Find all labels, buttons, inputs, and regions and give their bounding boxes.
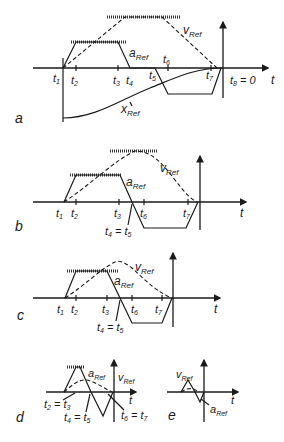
svg-text:t3: t3 xyxy=(114,207,121,220)
panel-label-e: e xyxy=(168,407,176,423)
svg-text:t7: t7 xyxy=(183,207,191,220)
svg-text:t3: t3 xyxy=(102,303,109,316)
svg-text:vRef: vRef xyxy=(118,371,135,385)
svg-text:t3: t3 xyxy=(113,74,120,87)
xref-label: xRef xyxy=(120,102,140,118)
svg-text:t6: t6 xyxy=(163,53,170,66)
svg-text:t2: t2 xyxy=(71,207,78,220)
acceleration-curve xyxy=(181,380,204,402)
t-axis-label: t xyxy=(271,73,275,87)
panel-b: vRef aRef t1 t2 t3 t6 t7 t4 = t5 t b xyxy=(15,151,246,238)
svg-text:t7: t7 xyxy=(155,303,163,316)
panel-label-a: a xyxy=(15,110,23,126)
svg-text:t4 = t5: t4 = t5 xyxy=(64,411,91,424)
svg-text:t1: t1 xyxy=(53,72,60,85)
svg-text:t8 = 0: t8 = 0 xyxy=(230,74,257,87)
panel-d: aRef vRef t t2 = t3 t4 = t5 t6 = t7 d xyxy=(16,360,149,425)
aref-label: aRef xyxy=(129,46,149,62)
position-curve xyxy=(63,68,222,118)
svg-text:t1: t1 xyxy=(56,207,63,220)
svg-text:aRef: aRef xyxy=(114,274,134,290)
svg-text:t2 = t3: t2 = t3 xyxy=(44,398,71,411)
svg-text:aRef: aRef xyxy=(210,403,228,417)
svg-text:t: t xyxy=(214,302,218,316)
svg-text:t4 = t5: t4 = t5 xyxy=(97,321,124,334)
svg-text:t5: t5 xyxy=(149,69,156,82)
svg-text:t6: t6 xyxy=(140,207,147,220)
svg-text:t7: t7 xyxy=(206,69,214,82)
svg-text:vRef: vRef xyxy=(176,368,193,382)
svg-text:t: t xyxy=(231,394,235,406)
svg-text:t6 = t7: t6 = t7 xyxy=(121,409,149,422)
svg-text:t2: t2 xyxy=(71,74,78,87)
panel-c: vRef aRef t1 t2 t3 t6 t7 t4 = t5 t c xyxy=(17,253,220,334)
panel-e: vRef aRef t e xyxy=(167,360,238,423)
panel-label-d: d xyxy=(16,409,25,425)
panel-label-c: c xyxy=(17,307,24,323)
svg-text:vRef: vRef xyxy=(160,161,179,177)
svg-text:t6: t6 xyxy=(131,303,138,316)
svg-text:vRef: vRef xyxy=(135,260,154,276)
svg-text:aRef: aRef xyxy=(88,367,106,381)
svg-text:t4: t4 xyxy=(126,74,133,87)
svg-text:aRef: aRef xyxy=(126,175,146,191)
svg-text:t1: t1 xyxy=(57,303,64,316)
svg-text:t: t xyxy=(240,206,244,220)
trajectory-figure: vRef aRef xRef t1 t2 t3 t4 t5 t6 t7 t8 =… xyxy=(0,0,284,442)
svg-text:t2: t2 xyxy=(71,303,78,316)
svg-text:t: t xyxy=(129,394,133,406)
panel-a: vRef aRef xRef t1 t2 t3 t4 t5 t6 t7 t8 =… xyxy=(15,17,275,126)
tick-labels: t1 t2 t3 t4 t5 t6 t7 t8 = 0 xyxy=(53,53,257,87)
svg-text:t4 = t5: t4 = t5 xyxy=(105,225,132,238)
vref-label: vRef xyxy=(183,23,202,39)
panel-label-b: b xyxy=(15,218,23,234)
